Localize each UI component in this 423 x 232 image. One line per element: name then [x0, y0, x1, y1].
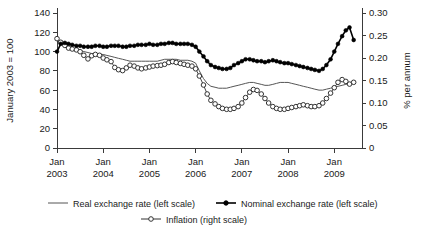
x-tick-label-month: Jan [327, 156, 342, 167]
marker-nominal [202, 54, 206, 58]
marker-nominal [255, 59, 259, 63]
marker-nominal [332, 50, 336, 54]
y-tick-label-right: 0.25 [369, 30, 388, 41]
marker-inflation [236, 104, 241, 109]
marker-inflation [201, 83, 206, 88]
marker-nominal [301, 65, 305, 69]
marker-nominal [197, 50, 201, 54]
marker-nominal [67, 42, 71, 46]
marker-inflation [351, 80, 356, 85]
y-tick-label-right: 0 [369, 142, 374, 153]
marker-nominal [321, 67, 325, 71]
marker-nominal [329, 57, 333, 61]
x-tick-label-month: Jan [280, 156, 295, 167]
y-tick-label-left: 100 [34, 46, 50, 57]
marker-inflation [332, 85, 337, 90]
marker-nominal [205, 59, 209, 63]
marker-nominal [182, 42, 186, 46]
marker-nominal [213, 65, 217, 69]
marker-nominal [263, 60, 267, 64]
marker-inflation [263, 96, 268, 101]
marker-inflation [266, 101, 271, 106]
marker-inflation [78, 49, 83, 54]
marker-nominal [174, 42, 178, 46]
y-tick-label-left: 60 [39, 85, 50, 96]
y-tick-label-right: 0.05 [369, 120, 388, 131]
marker-nominal [348, 26, 352, 30]
marker-nominal [232, 63, 236, 67]
y-tick-label-right: 0.15 [369, 75, 388, 86]
marker-nominal [306, 66, 310, 70]
marker-nominal [140, 43, 144, 47]
marker-nominal [344, 28, 348, 32]
marker-nominal [286, 61, 290, 65]
marker-nominal [294, 63, 298, 67]
marker-nominal [144, 43, 148, 47]
marker-nominal [278, 60, 282, 64]
marker-nominal [86, 45, 90, 49]
marker-nominal [128, 44, 132, 48]
x-tick-label-year: 2006 [185, 168, 206, 179]
marker-inflation [328, 91, 333, 96]
marker-nominal [55, 50, 59, 54]
chart-canvas: 02040608010012014000.050.100.150.200.250… [0, 0, 423, 232]
marker-nominal [136, 43, 140, 47]
y-axis-title-right: % per annum [401, 52, 412, 109]
marker-nominal [194, 45, 198, 49]
x-tick-label-month: Jan [234, 156, 249, 167]
marker-nominal [186, 42, 190, 46]
marker-nominal [325, 63, 329, 67]
y-tick-label-right: 0.10 [369, 97, 388, 108]
y-tick-label-right: 0.20 [369, 52, 388, 63]
marker-nominal [209, 63, 213, 67]
marker-nominal [59, 42, 63, 46]
marker-nominal [93, 44, 97, 48]
marker-nominal [171, 41, 175, 45]
marker-inflation [259, 92, 264, 97]
x-tick-label-year: 2005 [139, 168, 160, 179]
legend-label-real: Real exchange rate (left scale) [73, 199, 195, 209]
marker-nominal [82, 45, 86, 49]
marker-nominal [63, 41, 67, 45]
marker-nominal [217, 66, 221, 70]
marker-nominal [317, 69, 321, 73]
marker-nominal [248, 57, 252, 61]
marker-nominal [259, 59, 263, 63]
marker-inflation [209, 98, 214, 103]
marker-inflation [197, 74, 202, 79]
x-tick-label-month: Jan [188, 156, 203, 167]
marker-nominal [228, 66, 232, 70]
marker-inflation [320, 101, 325, 106]
marker-nominal [244, 57, 248, 61]
legend-marker-inflation [149, 217, 154, 222]
x-tick-label-year: 2004 [93, 168, 114, 179]
marker-inflation [324, 96, 329, 101]
y-tick-label-left: 0 [45, 142, 50, 153]
marker-nominal [190, 43, 194, 47]
marker-nominal [113, 44, 117, 48]
x-tick-label-year: 2009 [324, 168, 345, 179]
marker-nominal [309, 67, 313, 71]
y-axis-title-left: January 2003 = 100 [4, 38, 15, 122]
marker-nominal [121, 45, 125, 49]
series-inflation [57, 39, 354, 110]
marker-nominal [352, 38, 356, 42]
marker-nominal [282, 61, 286, 65]
marker-nominal [252, 58, 256, 62]
marker-nominal [167, 41, 171, 45]
marker-nominal [75, 44, 79, 48]
marker-nominal [70, 43, 74, 47]
marker-nominal [90, 45, 94, 49]
x-tick-label-year: 2007 [231, 168, 252, 179]
marker-nominal [313, 68, 317, 72]
marker-nominal [290, 62, 294, 66]
marker-nominal [155, 43, 159, 47]
marker-inflation [193, 67, 198, 72]
y-tick-label-right: 0.30 [369, 7, 388, 18]
y-tick-label-left: 120 [34, 27, 50, 38]
marker-inflation [255, 88, 260, 93]
marker-nominal [240, 59, 244, 63]
marker-nominal [163, 42, 167, 46]
marker-nominal [298, 64, 302, 68]
x-tick-label-month: Jan [49, 156, 64, 167]
